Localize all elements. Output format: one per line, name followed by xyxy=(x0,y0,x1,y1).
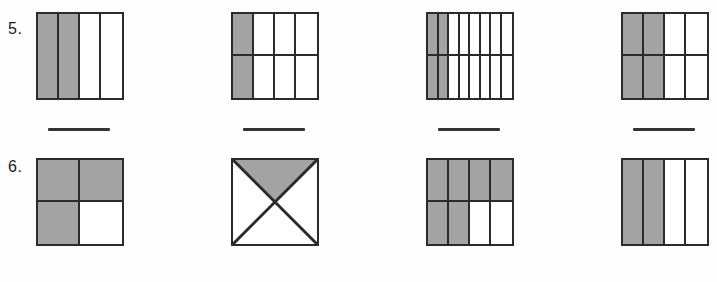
answer-line[interactable] xyxy=(633,128,695,131)
grid-cell xyxy=(233,14,254,56)
grid-cell xyxy=(449,56,460,98)
figure-6-3 xyxy=(426,158,514,246)
grid-cell xyxy=(686,56,707,98)
grid-cell xyxy=(296,56,317,98)
grid-cell xyxy=(439,56,450,98)
grid-cell xyxy=(254,56,275,98)
fraction-diagonal-square xyxy=(231,158,319,246)
figure-5-1 xyxy=(36,12,124,100)
grid-cell xyxy=(449,14,460,56)
figure-5-3 xyxy=(426,12,514,100)
grid-cell xyxy=(439,14,450,56)
problem-number-5: 5. xyxy=(8,20,22,38)
figure-6-2 xyxy=(231,158,319,246)
fraction-grid xyxy=(621,12,709,100)
grid-cell xyxy=(491,56,502,98)
grid-cell xyxy=(80,202,122,244)
grid-cell xyxy=(686,14,707,56)
answer-line[interactable] xyxy=(438,128,500,131)
grid-cell xyxy=(296,14,317,56)
fraction-grid xyxy=(36,158,124,246)
grid-cell xyxy=(428,14,439,56)
grid-cell xyxy=(80,160,122,202)
grid-cell xyxy=(470,56,481,98)
grid-cell xyxy=(644,56,665,98)
fraction-grid xyxy=(426,158,514,246)
grid-cell xyxy=(623,14,644,56)
problem-row-5: 5. xyxy=(0,0,717,145)
grid-cell xyxy=(502,56,513,98)
grid-cell xyxy=(491,14,502,56)
grid-cell xyxy=(460,14,471,56)
diagonal-quarters-icon xyxy=(233,160,317,244)
grid-cell xyxy=(428,160,449,202)
grid-cell xyxy=(491,160,512,202)
fraction-grid xyxy=(426,12,514,100)
grid-cell xyxy=(470,160,491,202)
grid-cell xyxy=(481,56,492,98)
grid-cell xyxy=(623,56,644,98)
grid-cell xyxy=(101,14,122,98)
grid-cell xyxy=(428,202,449,244)
grid-cell xyxy=(38,202,80,244)
problem-number-6: 6. xyxy=(8,158,22,176)
grid-cell xyxy=(449,160,470,202)
fraction-grid xyxy=(36,12,124,100)
grid-cell xyxy=(481,14,492,56)
figure-5-2 xyxy=(231,12,319,100)
grid-cell xyxy=(80,14,101,98)
fraction-grid xyxy=(231,12,319,100)
worksheet-page: 5. xyxy=(0,0,717,282)
answer-line[interactable] xyxy=(243,128,305,131)
grid-cell xyxy=(502,14,513,56)
grid-cell xyxy=(644,160,665,244)
grid-cell xyxy=(686,160,707,244)
grid-cell xyxy=(665,56,686,98)
grid-cell xyxy=(665,14,686,56)
grid-cell xyxy=(275,14,296,56)
grid-cell xyxy=(254,14,275,56)
grid-cell xyxy=(38,14,59,98)
grid-cell xyxy=(275,56,296,98)
grid-cell xyxy=(38,160,80,202)
problem-row-6: 6. xyxy=(0,140,717,282)
fraction-grid xyxy=(621,158,709,246)
grid-cell xyxy=(470,14,481,56)
grid-cell xyxy=(460,56,471,98)
grid-cell xyxy=(665,160,686,244)
grid-cell xyxy=(233,56,254,98)
figure-6-1 xyxy=(36,158,124,246)
answer-line[interactable] xyxy=(48,128,110,131)
figure-6-4 xyxy=(621,158,709,246)
grid-cell xyxy=(470,202,491,244)
grid-cell xyxy=(623,160,644,244)
grid-cell xyxy=(449,202,470,244)
grid-cell xyxy=(59,14,80,98)
grid-cell xyxy=(491,202,512,244)
figure-5-4 xyxy=(621,12,709,100)
grid-cell xyxy=(644,14,665,56)
grid-cell xyxy=(428,56,439,98)
